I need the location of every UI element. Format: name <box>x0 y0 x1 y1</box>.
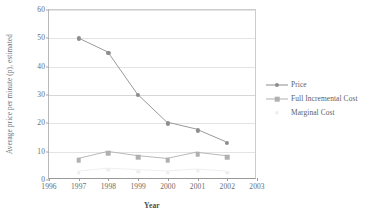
gridline <box>49 67 255 68</box>
series-line <box>78 168 225 171</box>
y-tick-label: 40 <box>37 63 45 71</box>
data-point-marker <box>195 128 199 132</box>
gridline <box>49 95 255 96</box>
legend-item[interactable]: Marginal Cost <box>266 106 378 120</box>
y-tick-label: 50 <box>37 35 45 43</box>
line-chart-figure: Average price per minute (p), estimated … <box>0 0 382 221</box>
y-axis-title: Average price per minute (p), estimated <box>7 34 14 154</box>
legend-item-label: Full Incremental Cost <box>291 95 358 102</box>
gridline <box>49 123 255 124</box>
data-point-marker <box>107 168 110 171</box>
chart-legend: PriceFull Incremental CostMarginal Cost <box>266 78 378 120</box>
y-tick-mark <box>46 66 49 67</box>
y-tick-label: 10 <box>37 148 45 156</box>
plot-area: 0102030405060 19961997199819992000200120… <box>48 9 256 179</box>
data-point-marker <box>196 169 199 172</box>
data-point-marker <box>77 171 80 174</box>
y-tick-mark <box>46 123 49 124</box>
x-tick-mark <box>79 178 80 181</box>
y-tick-mark <box>46 38 49 39</box>
x-tick-mark <box>49 178 50 181</box>
legend-key-icon <box>266 108 288 118</box>
data-point-marker <box>76 158 81 163</box>
x-tick-label: 1997 <box>71 183 86 191</box>
x-tick-mark <box>227 178 228 181</box>
x-tick-label: 2001 <box>190 183 205 191</box>
y-tick-mark <box>46 95 49 96</box>
x-tick-label: 1996 <box>41 183 56 191</box>
gridline <box>49 38 255 39</box>
legend-key-icon <box>266 94 288 104</box>
y-tick-mark <box>46 151 49 152</box>
legend-item[interactable]: Price <box>266 78 378 92</box>
data-point-marker <box>166 171 169 174</box>
gridline <box>49 152 255 153</box>
series-lines <box>49 10 255 178</box>
x-tick-mark <box>108 178 109 181</box>
y-tick-label: 30 <box>37 91 45 99</box>
legend-key-icon <box>266 80 288 90</box>
y-tick-label: 20 <box>37 120 45 128</box>
data-point-marker <box>226 171 229 174</box>
x-tick-label: 2002 <box>220 183 235 191</box>
legend-item-label: Price <box>291 81 307 88</box>
data-point-marker <box>136 155 141 160</box>
x-tick-label: 1998 <box>101 183 116 191</box>
y-tick-label: 60 <box>37 6 45 14</box>
x-tick-mark <box>198 178 199 181</box>
data-point-marker <box>136 170 139 173</box>
data-point-marker <box>225 141 229 145</box>
data-point-marker <box>106 50 110 54</box>
data-point-marker <box>225 155 230 160</box>
x-tick-mark <box>138 178 139 181</box>
series-line <box>78 38 225 142</box>
series-markers <box>49 10 255 178</box>
x-tick-mark <box>257 178 258 181</box>
gridline <box>49 10 255 11</box>
x-tick-label: 2003 <box>249 183 264 191</box>
x-tick-label: 2000 <box>160 183 175 191</box>
x-tick-mark <box>168 178 169 181</box>
x-tick-label: 1999 <box>130 183 145 191</box>
legend-item[interactable]: Full Incremental Cost <box>266 92 378 106</box>
data-point-marker <box>166 158 171 163</box>
y-tick-mark <box>46 10 49 11</box>
x-axis-title: Year <box>144 201 160 210</box>
legend-item-label: Marginal Cost <box>291 109 335 116</box>
